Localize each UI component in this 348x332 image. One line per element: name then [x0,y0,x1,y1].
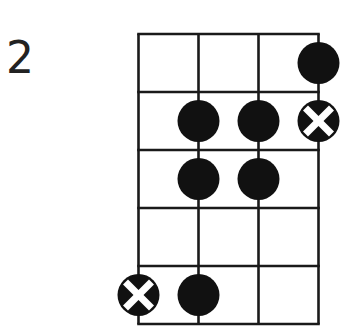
finger-dot-marker [238,100,280,142]
fretboard-diagram [0,0,348,332]
finger-dot-marker [178,158,220,200]
finger-dot-marker [178,274,220,316]
fretboard-grid [137,34,320,324]
finger-dot-marker [238,158,280,200]
finger-dot-marker [298,42,340,84]
finger-dot-marker [178,100,220,142]
cross-dot-marker [118,274,160,316]
finger-markers [118,42,340,316]
cross-dot-marker [298,100,340,142]
